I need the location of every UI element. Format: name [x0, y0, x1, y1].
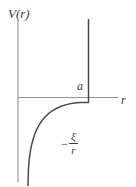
potential-curve	[28, 103, 88, 187]
potential-plot-svg	[0, 0, 136, 186]
asymptote-label: − ξ r	[61, 131, 78, 156]
asymptote-minus-sign: −	[61, 137, 68, 152]
asymptote-fraction: ξ r	[69, 131, 78, 156]
potential-diagram-figure: V(r) r a − ξ r	[0, 0, 136, 186]
asymptote-denominator: r	[70, 144, 76, 156]
asymptote-numerator: ξ	[70, 131, 77, 143]
y-axis-label: V(r)	[8, 7, 30, 20]
barrier-position-label: a	[77, 80, 83, 92]
x-axis-label: r	[121, 94, 126, 106]
